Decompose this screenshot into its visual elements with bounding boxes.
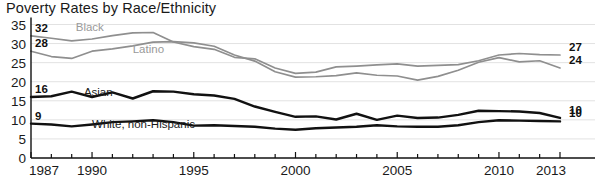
y-axis-tick-labels: 05101520253035 [11,18,26,167]
axes-group [31,18,595,159]
y-tick-label: 0 [18,151,26,166]
y-tick-label: 20 [11,75,26,90]
series-label-latino: Latino [133,43,164,55]
poverty-rates-chart: Poverty Rates by Race/Ethnicity 05101520… [0,0,603,183]
start-value-label: 16 [35,83,48,95]
y-tick-label: 35 [11,18,26,33]
x-tick-label: 2000 [280,163,310,178]
tick-marks-group [31,152,560,158]
chart-plot-area: 05101520253035 1987199019952000200520102… [0,0,603,183]
end-value-label: 27 [569,41,582,53]
x-tick-label: 2010 [484,163,514,178]
end-value-label: 24 [569,54,582,66]
x-tick-label: 1990 [77,163,107,178]
y-tick-label: 5 [18,132,26,147]
series-label-asian: Asian [84,86,113,98]
y-tick-label: 15 [11,94,26,109]
start-value-label: 28 [35,37,48,49]
series-lines-group [31,33,560,130]
series-inline-labels: BlackLatinoAsianWhite, non-Hispanic [76,21,195,130]
start-value-label: 9 [35,110,41,122]
x-tick-label: 1995 [179,163,209,178]
x-tick-label: 2005 [382,163,412,178]
x-tick-label: 1987 [29,163,59,178]
end-value-label: 10 [569,107,582,119]
y-tick-label: 25 [11,56,26,71]
series-label-white-non-hispanic: White, non-Hispanic [92,118,195,130]
x-tick-label: 2013 [536,163,566,178]
series-line-black [31,33,560,74]
series-label-black: Black [76,21,104,33]
start-value-label: 32 [35,22,48,34]
y-tick-label: 30 [11,37,26,52]
x-axis-tick-labels: 1987199019952000200520102013 [29,163,566,178]
y-tick-label: 10 [11,113,26,128]
